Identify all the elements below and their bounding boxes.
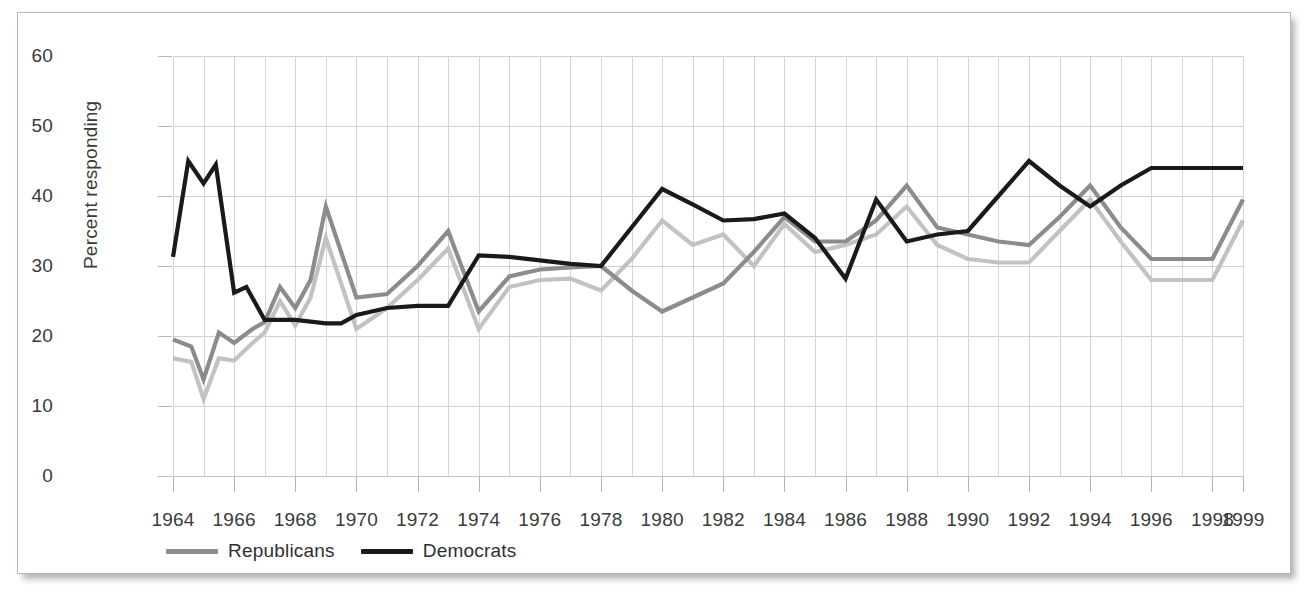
x-tick-mark-1964: [173, 476, 174, 492]
x-tick-label-1980: 1980: [641, 509, 684, 531]
legend-swatch-republicans: [166, 549, 218, 554]
chart-legend: Republicans Democrats: [166, 540, 516, 562]
x-tick-mark-1966: [234, 476, 235, 492]
x-tick-label-1996: 1996: [1130, 509, 1173, 531]
x-tick-mark-1994: [1090, 476, 1091, 492]
gridline-v-1999: [1243, 56, 1244, 476]
x-tick-mark-1972: [418, 476, 419, 492]
y-tick-mark-30: [158, 266, 172, 267]
y-tick-mark-60: [158, 56, 172, 57]
x-tick-mark-1988: [907, 476, 908, 492]
legend-label-republicans: Republicans: [228, 540, 335, 562]
x-tick-mark-1980: [662, 476, 663, 492]
x-tick-label-1978: 1978: [579, 509, 622, 531]
x-tick-label-1988: 1988: [885, 509, 928, 531]
y-tick-label-30: 30: [0, 255, 53, 277]
x-tick-label-1972: 1972: [396, 509, 439, 531]
x-tick-label-1999: 1999: [1221, 509, 1264, 531]
x-tick-label-1974: 1974: [457, 509, 500, 531]
chart-card: Percent responding 0102030405060 1964196…: [17, 12, 1291, 574]
gridline-h-0: [173, 476, 1243, 477]
x-tick-mark-1990: [968, 476, 969, 492]
legend-label-democrats: Democrats: [423, 540, 517, 562]
y-tick-mark-40: [158, 196, 172, 197]
y-tick-label-0: 0: [0, 465, 53, 487]
x-tick-label-1984: 1984: [763, 509, 806, 531]
series-line-democrats: [173, 161, 1243, 323]
y-tick-label-20: 20: [0, 325, 53, 347]
x-tick-label-1976: 1976: [518, 509, 561, 531]
y-tick-label-40: 40: [0, 185, 53, 207]
legend-swatch-democrats: [361, 549, 413, 554]
x-tick-mark-1984: [784, 476, 785, 492]
x-tick-label-1966: 1966: [213, 509, 256, 531]
y-tick-label-60: 60: [0, 45, 53, 67]
x-tick-mark-1970: [356, 476, 357, 492]
x-tick-mark-1986: [846, 476, 847, 492]
legend-item-republicans[interactable]: Republicans: [166, 540, 335, 562]
series-lines: [173, 56, 1243, 476]
y-tick-mark-20: [158, 336, 172, 337]
x-tick-label-1990: 1990: [946, 509, 989, 531]
x-tick-label-1964: 1964: [151, 509, 194, 531]
x-tick-label-1982: 1982: [702, 509, 745, 531]
y-tick-mark-10: [158, 406, 172, 407]
y-tick-label-10: 10: [0, 395, 53, 417]
x-tick-mark-1982: [723, 476, 724, 492]
x-tick-mark-1992: [1029, 476, 1030, 492]
plot-area: [173, 56, 1243, 476]
y-tick-mark-0: [158, 476, 172, 477]
chart-figure-root: Percent responding 0102030405060 1964196…: [0, 0, 1311, 614]
x-tick-label-1994: 1994: [1069, 509, 1112, 531]
x-tick-mark-1999: [1243, 476, 1244, 492]
x-tick-label-1986: 1986: [824, 509, 867, 531]
x-tick-label-1970: 1970: [335, 509, 378, 531]
y-tick-label-50: 50: [0, 115, 53, 137]
x-tick-mark-1978: [601, 476, 602, 492]
legend-item-democrats[interactable]: Democrats: [361, 540, 517, 562]
y-axis-title: Percent responding: [80, 101, 102, 269]
x-tick-mark-1974: [479, 476, 480, 492]
x-tick-label-1992: 1992: [1007, 509, 1050, 531]
x-tick-mark-1976: [540, 476, 541, 492]
x-tick-mark-1998: [1212, 476, 1213, 492]
x-tick-mark-1968: [295, 476, 296, 492]
x-tick-mark-1996: [1151, 476, 1152, 492]
y-tick-mark-50: [158, 126, 172, 127]
x-tick-label-1968: 1968: [274, 509, 317, 531]
